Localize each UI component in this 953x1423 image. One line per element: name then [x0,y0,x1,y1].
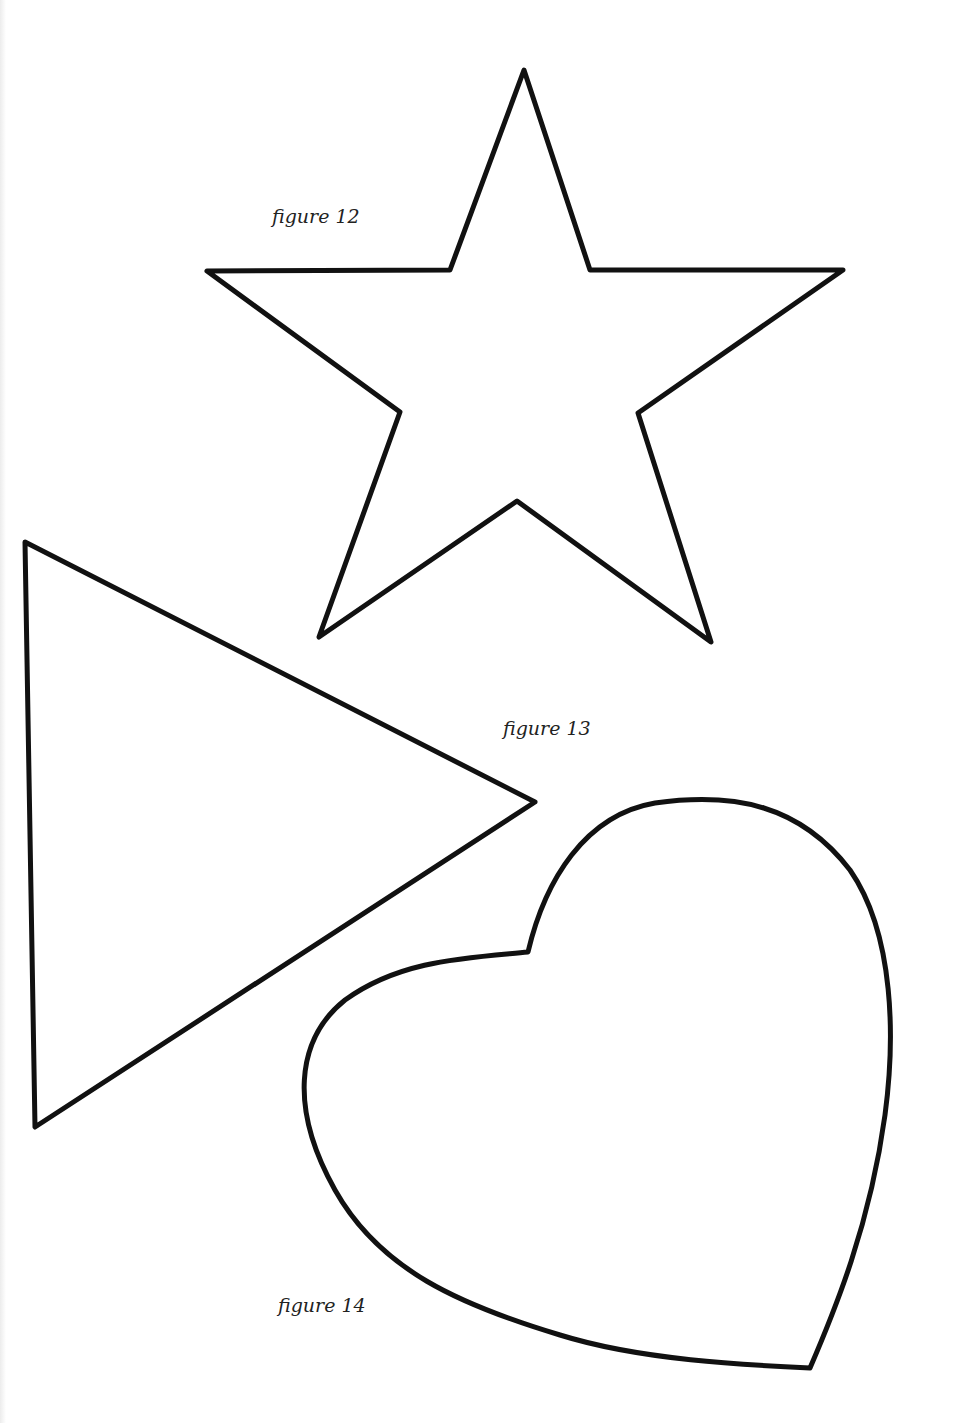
shapes-canvas [0,0,953,1423]
heart-outline [304,800,890,1368]
star-outline [207,70,843,642]
figure-13-caption: figure 13 [503,719,591,738]
figure-14-caption: figure 14 [278,1296,366,1315]
triangle-outline [25,542,535,1127]
figure-12-caption: figure 12 [272,207,360,226]
worksheet-page: figure 12 figure 13 figure 14 [0,0,953,1423]
